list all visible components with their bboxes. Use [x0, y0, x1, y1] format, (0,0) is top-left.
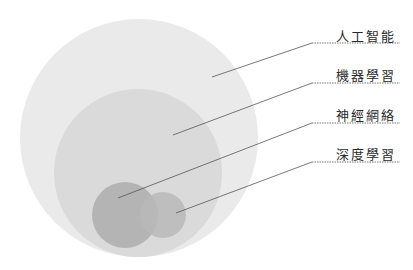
label-machine-learning: 機器學習	[336, 65, 396, 84]
label-deep-learning: 深度學習	[336, 144, 396, 163]
label-neural-networks: 神經網絡	[336, 105, 396, 124]
label-artificial-intelligence: 人工智能	[336, 26, 396, 45]
circle-dl	[140, 192, 186, 238]
